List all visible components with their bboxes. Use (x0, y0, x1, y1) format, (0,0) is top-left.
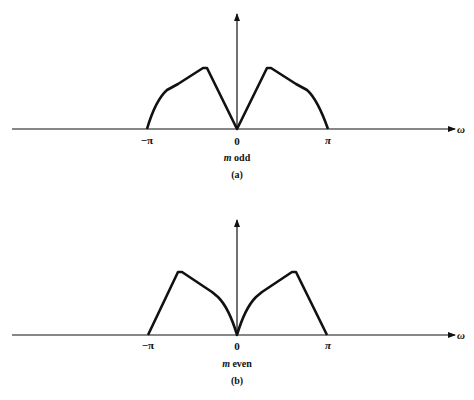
condition-label: m odd (224, 152, 251, 163)
tick-neg-pi: −π (141, 134, 153, 146)
condition-text: even (230, 358, 252, 369)
tick-pi: π (325, 134, 332, 146)
tick-pi: π (325, 339, 332, 351)
condition-label: m even (222, 358, 252, 369)
tick-zero: 0 (234, 340, 240, 352)
caption-a: (a) (231, 169, 243, 181)
panel-b: −π 0 π ω m even (b) (12, 220, 465, 387)
panel-a: −π 0 π ω m odd (a) (12, 14, 465, 181)
condition-text: odd (232, 152, 251, 163)
figure: −π 0 π ω m odd (a) −π 0 π ω m even (b) (0, 0, 474, 400)
tick-neg-pi: −π (142, 339, 154, 351)
caption-b: (b) (231, 375, 243, 387)
omega-axis-label: ω (457, 123, 465, 135)
tick-zero: 0 (234, 135, 240, 147)
omega-axis-label: ω (457, 329, 465, 341)
